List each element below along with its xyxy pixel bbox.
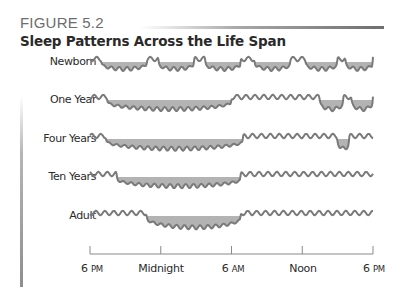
tick-label-6am: 6 AM: [222, 262, 244, 275]
x-axis: [90, 246, 373, 254]
tick-label-noon: Noon: [289, 262, 316, 275]
tick-label-6pm-start: 6 PM: [81, 262, 103, 275]
wave-series-group: [90, 57, 373, 230]
sleep-fill: [117, 177, 240, 188]
sleep-pattern-chart: [0, 0, 398, 287]
tick-label-midnight: Midnight: [138, 262, 183, 275]
tick-label-6pm-end: 6 PM: [363, 262, 385, 275]
